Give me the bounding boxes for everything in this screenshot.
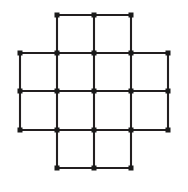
graph-node (166, 89, 171, 94)
graph-node (92, 166, 97, 171)
graph-node (129, 89, 134, 94)
graph-node (55, 128, 60, 133)
graph-node (92, 13, 97, 18)
graph-node (129, 51, 134, 56)
graph-node (129, 13, 134, 18)
graph-node (55, 51, 60, 56)
graph-node (166, 128, 171, 133)
graph-node (92, 128, 97, 133)
graph-node (129, 166, 134, 171)
graph-node (18, 89, 23, 94)
graph-node (55, 89, 60, 94)
graph-node (55, 166, 60, 171)
graph-node (92, 89, 97, 94)
graph-node (92, 51, 97, 56)
graph-node (18, 51, 23, 56)
graph-node (166, 51, 171, 56)
graph-node (18, 128, 23, 133)
graph-node (55, 13, 60, 18)
graph-canvas (0, 0, 188, 192)
graph-node (129, 128, 134, 133)
lattice-graph-figure (0, 0, 188, 192)
